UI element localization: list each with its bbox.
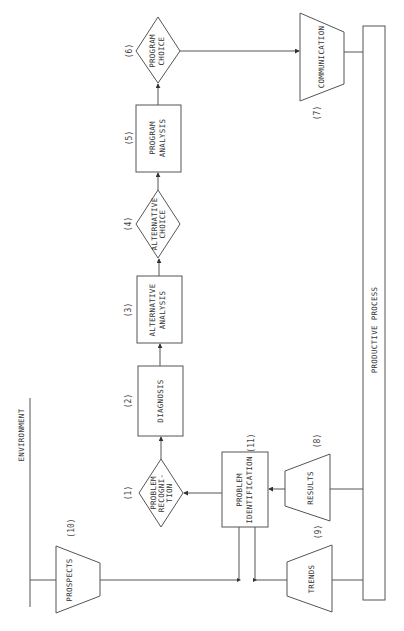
node-results: RESULTS (8) (285, 434, 330, 521)
svg-text:RESULTS: RESULTS (306, 471, 315, 505)
node-alternative-choice: ALTERNATIVE CHOICE (4) (124, 190, 180, 258)
edge-9-11 (255, 527, 287, 580)
svg-text:ANALYSIS: ANALYSIS (158, 119, 167, 158)
node-program-analysis: PROGRAM ANALYSIS (5) (125, 105, 181, 172)
svg-text:COMMUNICATION: COMMUNICATION (317, 26, 326, 89)
svg-text:(5): (5) (125, 131, 134, 145)
svg-text:CHOICE: CHOICE (158, 209, 167, 238)
node-problem-recognition: PROBLEM RECOGNI- TION (1) (124, 459, 183, 527)
svg-text:PROGRAM: PROGRAM (148, 34, 157, 68)
svg-text:ANALYSIS: ANALYSIS (158, 291, 167, 330)
svg-text:DIAGNOSIS: DIAGNOSIS (156, 379, 165, 423)
svg-text:(6): (6) (125, 44, 134, 58)
node-diagnosis: DIAGNOSIS (2) (124, 366, 183, 436)
svg-text:TION: TION (165, 483, 174, 502)
svg-text:(2): (2) (124, 394, 133, 408)
svg-text:PROBLEM: PROBLEM (235, 473, 244, 507)
node-program-choice: PROGRAM CHOICE (6) (125, 17, 180, 83)
environment-label: ENVIRONMENT (17, 408, 26, 461)
node-problem-identification: PROBLEM IDENTIFICATION (11) (222, 433, 268, 527)
svg-text:CHOICE: CHOICE (157, 36, 166, 65)
svg-text:(3): (3) (124, 303, 133, 317)
node-alternative-analysis: ALTERNATIVE ANALYSIS (3) (124, 276, 182, 343)
svg-text:ALTERNATIVE: ALTERNATIVE (148, 283, 157, 336)
svg-text:(4): (4) (124, 217, 133, 231)
svg-text:(9): (9) (314, 525, 323, 539)
productive-process-label: PRODUCTIVE PROCESS (370, 286, 379, 373)
svg-text:(10): (10) (67, 518, 76, 537)
svg-text:(7): (7) (313, 106, 322, 120)
productive-process-bar: PRODUCTIVE PROCESS (363, 26, 385, 600)
svg-text:PROGRAM: PROGRAM (148, 121, 157, 155)
svg-text:PROSPECTS: PROSPECTS (65, 558, 74, 602)
node-communication: COMMUNICATION (7) (300, 13, 344, 120)
node-trends: TRENDS (9) (287, 525, 332, 612)
svg-text:TRENDS: TRENDS (307, 564, 316, 593)
svg-text:(8): (8) (313, 434, 322, 448)
edge-10-11 (100, 527, 239, 580)
svg-text:(11): (11) (247, 433, 256, 452)
environment-boundary: ENVIRONMENT (17, 398, 30, 607)
flowchart-canvas: PRODUCTIVE PROCESS ENVIRONMENT PROGRAM C… (0, 0, 404, 631)
svg-text:IDENTIFICATION: IDENTIFICATION (245, 456, 254, 523)
node-prospects: PROSPECTS (10) (56, 518, 100, 613)
svg-text:(1): (1) (124, 486, 133, 500)
